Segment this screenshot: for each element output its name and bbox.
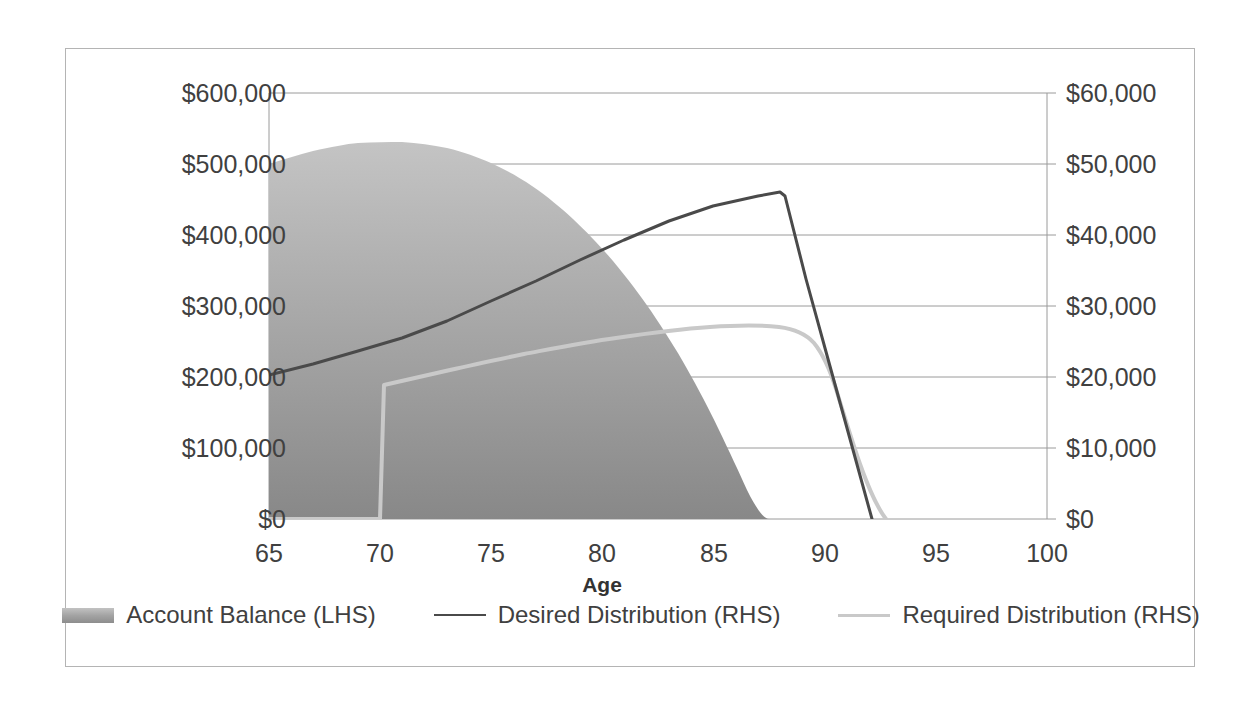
legend-label-required-distribution: Required Distribution (RHS) [902, 603, 1199, 627]
series-account-balance-area [269, 142, 769, 519]
y-right-tick-20000: $20,000 [1066, 365, 1226, 390]
chart-frame: $600,000 $500,000 $400,000 $300,000 $200… [65, 48, 1195, 667]
y-right-tick-50000: $50,000 [1066, 152, 1226, 177]
x-tick-95: 95 [896, 541, 976, 566]
right-axis-ticks [1047, 93, 1056, 519]
y-left-tick-300000: $300,000 [96, 294, 286, 319]
line-swatch-light-icon [838, 614, 890, 617]
legend-label-account-balance: Account Balance (LHS) [126, 603, 375, 627]
y-left-tick-100000: $100,000 [96, 436, 286, 461]
x-tick-100: 100 [1007, 541, 1087, 566]
x-tick-90: 90 [785, 541, 865, 566]
y-left-tick-400000: $400,000 [96, 223, 286, 248]
y-right-tick-30000: $30,000 [1066, 294, 1226, 319]
y-left-tick-200000: $200,000 [96, 365, 286, 390]
legend-label-desired-distribution: Desired Distribution (RHS) [498, 603, 781, 627]
chart-legend: Account Balance (LHS) Desired Distributi… [66, 603, 1196, 627]
y-right-tick-0: $0 [1066, 507, 1226, 532]
x-axis-title: Age [518, 573, 686, 597]
legend-item-required-distribution[interactable]: Required Distribution (RHS) [838, 603, 1199, 627]
legend-item-account-balance[interactable]: Account Balance (LHS) [62, 603, 375, 627]
x-tick-70: 70 [340, 541, 420, 566]
y-left-tick-500000: $500,000 [96, 152, 286, 177]
y-right-tick-10000: $10,000 [1066, 436, 1226, 461]
x-tick-75: 75 [451, 541, 531, 566]
x-tick-80: 80 [562, 541, 642, 566]
line-swatch-dark-icon [434, 614, 486, 616]
plot-area: $600,000 $500,000 $400,000 $300,000 $200… [66, 49, 1196, 668]
area-swatch-icon [62, 608, 114, 623]
x-tick-65: 65 [229, 541, 309, 566]
legend-item-desired-distribution[interactable]: Desired Distribution (RHS) [434, 603, 781, 627]
x-tick-85: 85 [674, 541, 754, 566]
y-left-tick-600000: $600,000 [96, 81, 286, 106]
y-left-tick-0: $0 [96, 507, 286, 532]
y-right-tick-60000: $60,000 [1066, 81, 1226, 106]
y-right-tick-40000: $40,000 [1066, 223, 1226, 248]
